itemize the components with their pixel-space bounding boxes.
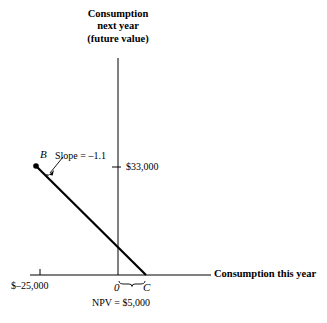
y-axis-title-line-1: Consumption [72, 8, 164, 20]
y-axis-title: Consumption next year (future value) [72, 8, 164, 45]
y-axis-title-line-3: (future value) [72, 33, 164, 45]
slope-leader-arrowhead [46, 170, 55, 176]
origin-label: 0 [114, 281, 120, 294]
npv-annotation-label: NPV = $5,000 [92, 297, 150, 309]
point-b-label: B [40, 148, 47, 161]
point-b-marker [33, 163, 39, 169]
y-axis-value-label: $33,000 [126, 161, 159, 173]
budget-line [36, 166, 146, 275]
npv-brace [119, 281, 145, 287]
npv-consumption-diagram: Consumption next year (future value) Con… [0, 0, 327, 323]
point-c-label: C [143, 281, 150, 294]
slope-annotation-label: Slope = –1.1 [55, 150, 106, 162]
y-axis-title-line-2: next year [72, 20, 164, 32]
x-axis-title: Consumption this year [214, 268, 316, 280]
x-axis-negative-value-label: $–25,000 [11, 280, 49, 292]
